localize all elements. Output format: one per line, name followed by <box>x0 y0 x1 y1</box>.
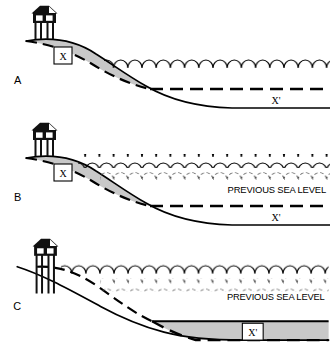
offshore-label-xprime: X' <box>271 95 280 106</box>
offshore-sediment-deposit <box>152 321 329 340</box>
previous-sea-level-waves <box>101 279 329 292</box>
house-window-right <box>46 15 53 20</box>
offshore-label-xprime-box: X' <box>242 323 263 340</box>
stilt-house <box>32 6 58 39</box>
panel-a: X X' A <box>0 0 330 118</box>
house-stilts-exposed <box>36 254 55 294</box>
house-stilts <box>35 21 55 39</box>
panel-b: PREVIOUS SEA LEVEL X <box>0 117 330 235</box>
previous-sea-level-label: PREVIOUS SEA LEVEL <box>227 292 325 302</box>
beach-label-x-text: X <box>59 51 67 62</box>
house-window-right <box>47 248 54 253</box>
house-window-left <box>36 15 43 20</box>
panel-letter-c: C <box>13 300 21 312</box>
house-window-right <box>46 132 53 137</box>
panel-letter-b: B <box>14 191 21 203</box>
previous-sea-level-label: PREVIOUS SEA LEVEL <box>228 184 326 195</box>
beach-label-x: X <box>54 164 72 181</box>
panel-c: PREVIOUS SEA LEVEL X' <box>0 234 330 352</box>
panel-letter-a: A <box>14 74 22 86</box>
offshore-label-xprime: X' <box>271 212 280 223</box>
sea-waves <box>78 154 330 168</box>
previous-sea-level-waves <box>100 171 330 184</box>
coastal-erosion-figure: X X' A <box>0 0 330 353</box>
house-stilts <box>35 138 55 156</box>
beach-label-x: X <box>54 47 72 64</box>
house-window-left <box>36 132 43 137</box>
stilt-house <box>32 123 58 156</box>
beach-label-x-text: X <box>59 168 67 179</box>
house-window-left <box>37 248 44 253</box>
sea-waves <box>104 54 330 68</box>
offshore-label-xprime-text: X' <box>248 327 257 338</box>
sea-waves <box>61 261 329 275</box>
